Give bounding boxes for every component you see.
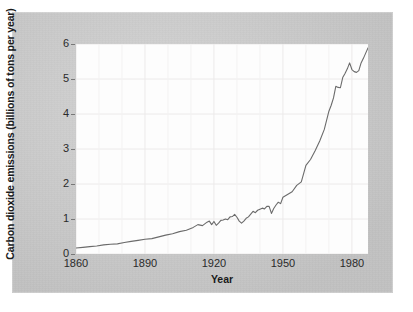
y-tick-mark — [71, 149, 75, 150]
emissions-line-series — [76, 44, 368, 254]
y-tick-label: 4 — [49, 107, 69, 119]
y-tick-mark — [71, 219, 75, 220]
y-tick-label: 3 — [49, 142, 69, 154]
y-tick-mark — [71, 79, 75, 80]
x-tick-label: 1950 — [260, 257, 306, 269]
plot-area — [76, 44, 368, 254]
y-tick-label: 5 — [49, 72, 69, 84]
y-tick-mark — [71, 254, 75, 255]
x-tick-label: 1920 — [191, 257, 237, 269]
y-tick-label: 2 — [49, 177, 69, 189]
y-tick-mark — [71, 114, 75, 115]
x-tick-label: 1890 — [122, 257, 168, 269]
y-tick-label: 6 — [49, 37, 69, 49]
y-axis-title: Carbon dioxide emissions (billions of to… — [4, 0, 16, 304]
y-tick-label: 1 — [49, 212, 69, 224]
x-tick-label: 1860 — [53, 257, 99, 269]
x-tick-label: 1980 — [329, 257, 375, 269]
figure-container: Carbon dioxide emissions (billions of to… — [0, 0, 413, 312]
x-axis-title: Year — [76, 273, 368, 285]
y-tick-mark — [71, 44, 75, 45]
y-tick-mark — [71, 184, 75, 185]
